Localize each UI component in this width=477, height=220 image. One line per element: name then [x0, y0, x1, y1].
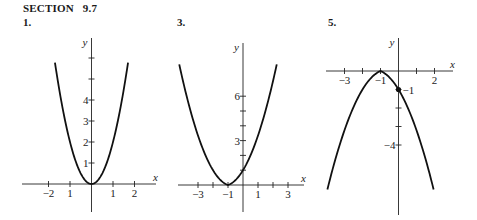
- x-tick-label: −2: [43, 187, 55, 199]
- function-curve: [327, 71, 433, 189]
- function-curve: [179, 64, 277, 185]
- y-tick-label: 2: [83, 136, 89, 148]
- marked-point: [396, 87, 401, 92]
- x-tick-label: 3: [285, 188, 291, 200]
- y-axis-label: y: [82, 36, 88, 48]
- y-tick-label: 1: [83, 157, 89, 169]
- y-axis-label: y: [233, 41, 239, 53]
- y-tick-label: 3: [83, 115, 89, 127]
- x-tick-label: 2: [432, 74, 438, 86]
- x-axis-label: x: [449, 58, 455, 70]
- x-tick-label: −1: [375, 74, 387, 86]
- x-tick-label: −3: [339, 74, 351, 86]
- x-tick-label: 1: [67, 187, 73, 199]
- x-tick-label: 2: [132, 187, 138, 199]
- y-tick-label: −4: [384, 139, 396, 151]
- graph-problem-1: xy−21121234: [22, 36, 158, 212]
- graphs-canvas: xy−21121234 xy−3−11336 xy−3−12−1−4: [0, 0, 477, 220]
- y-tick-label: 4: [83, 94, 89, 106]
- x-tick-label: 1: [255, 188, 261, 200]
- x-axis-label: x: [152, 171, 158, 183]
- y-tick-label: −1: [403, 84, 415, 96]
- y-axis-label: y: [389, 36, 395, 48]
- graph-problem-5: xy−3−12−1−4: [326, 36, 455, 215]
- x-tick-label: −3: [192, 188, 204, 200]
- y-tick-label: 3: [235, 135, 241, 147]
- x-axis-label: x: [300, 172, 306, 184]
- graph-problem-3: xy−3−11336: [178, 41, 306, 212]
- y-tick-label: 6: [235, 90, 241, 102]
- x-tick-label: −1: [222, 188, 234, 200]
- x-tick-label: 1: [110, 187, 116, 199]
